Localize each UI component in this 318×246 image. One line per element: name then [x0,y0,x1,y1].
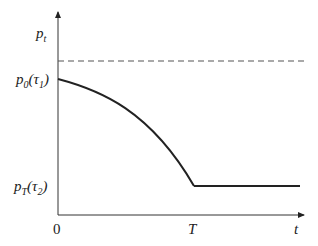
price-path-curve [58,79,194,186]
T-tick-label: T [188,221,198,237]
y-axis-label: pt [35,25,47,44]
p0-label: p0(τ1) [15,71,49,90]
origin-label: 0 [53,221,61,237]
price-path-diagram: pt p0(τ1) pT(τ2) 0 T t [0,0,318,246]
pT-label: pT(τ2) [13,178,47,197]
x-axis-label: t [294,221,299,237]
